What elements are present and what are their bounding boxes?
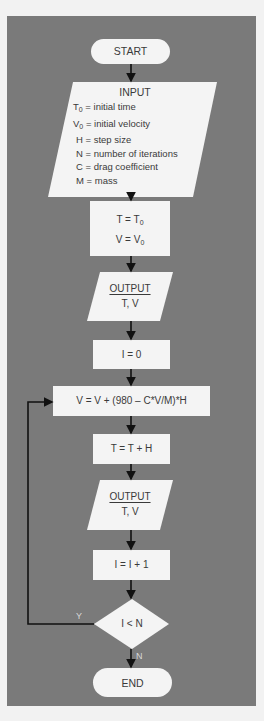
output1-title: OUTPUT bbox=[90, 281, 170, 296]
time-update-label: T = T + H bbox=[93, 443, 170, 455]
output2-label: OUTPUT T, V bbox=[90, 489, 170, 519]
no-branch-label: N bbox=[136, 651, 143, 661]
output1-label: OUTPUT T, V bbox=[90, 281, 170, 311]
start-label: START bbox=[91, 45, 170, 58]
end-label: END bbox=[93, 677, 172, 690]
output1-vars: T, V bbox=[90, 296, 170, 311]
input-line-n: N = number of iterations bbox=[73, 147, 178, 161]
input-line-c: C = drag coefficient bbox=[73, 160, 178, 174]
input-line-m: M = mass bbox=[73, 174, 178, 188]
init-line-t: T = T0 bbox=[90, 211, 170, 231]
input-line-v0: V0 = initial velocity bbox=[73, 117, 178, 134]
output2-title: OUTPUT bbox=[90, 489, 170, 504]
output2-vars: T, V bbox=[90, 504, 170, 519]
input-title: INPUT bbox=[95, 86, 175, 99]
velocity-update-label: V = V + (980 – C*V/M)*H bbox=[53, 395, 210, 407]
input-variable-list: T0 = initial time V0 = initial velocity … bbox=[73, 100, 178, 187]
init-label: T = T0 V = V0 bbox=[90, 211, 170, 251]
counter-init-label: I = 0 bbox=[93, 349, 170, 361]
input-line-h: H = step size bbox=[73, 133, 178, 147]
decision-label: I < N bbox=[94, 618, 170, 630]
counter-inc-label: I = I + 1 bbox=[93, 559, 170, 571]
input-line-t0: T0 = initial time bbox=[73, 100, 178, 117]
init-line-v: V = V0 bbox=[90, 231, 170, 251]
yes-branch-label: Y bbox=[76, 611, 82, 621]
